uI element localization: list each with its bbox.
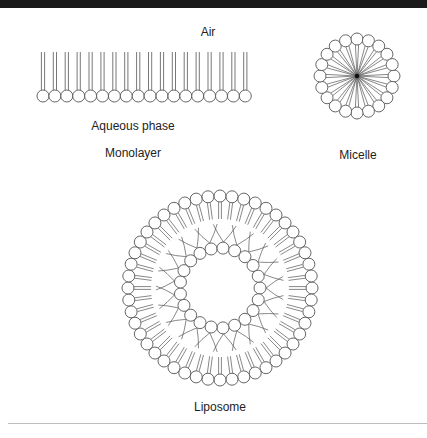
lipid-structures-figure: [0, 0, 427, 438]
liposome-diagram: [122, 190, 318, 386]
monolayer-diagram: [37, 52, 251, 102]
air-label: Air: [201, 25, 216, 39]
liposome-label: Liposome: [194, 400, 246, 414]
micelle-label: Micelle: [339, 148, 376, 162]
aqueous-phase-label: Aqueous phase: [91, 119, 174, 133]
micelle-diagram: [314, 33, 400, 119]
monolayer-label: Monolayer: [105, 146, 161, 160]
bottom-rule: [8, 423, 427, 424]
